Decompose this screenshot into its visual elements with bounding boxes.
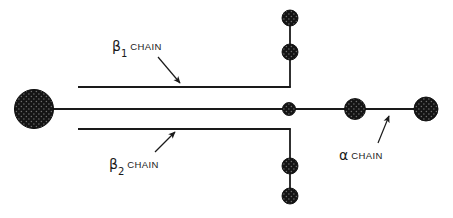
beta1-subscript: 1 (121, 48, 127, 59)
alpha-pointer-arrow (378, 116, 389, 143)
beta1-inner-node (282, 44, 298, 60)
beta2-subscript: 2 (118, 166, 124, 177)
beta2-pointer-arrow (155, 132, 175, 152)
alpha-greek-symbol: α (339, 147, 348, 163)
center-junction-node (283, 103, 296, 116)
beta2-inner-node (282, 158, 298, 174)
beta1-outer-node (282, 10, 298, 26)
left-terminal-node (15, 90, 54, 129)
edge-group (34, 11, 426, 203)
beta2-outer-node (282, 188, 298, 204)
figure-canvas: β1CHAIN β2CHAIN αCHAIN (0, 0, 453, 218)
alpha-chain-word: CHAIN (351, 150, 383, 161)
alpha-terminal-node (414, 97, 438, 121)
beta1-greek-symbol: β (112, 38, 121, 54)
beta1-pointer-arrow (158, 57, 180, 83)
chain-diagram-svg (0, 0, 453, 218)
node-group (15, 10, 439, 204)
alpha-chain-label: αCHAIN (339, 147, 383, 163)
beta2-chain-label: β2CHAIN (109, 156, 159, 175)
beta2-greek-symbol: β (109, 156, 118, 172)
beta2-chain-word: CHAIN (127, 159, 159, 170)
beta1-chain-word: CHAIN (130, 41, 162, 52)
beta1-chain-label: β1CHAIN (112, 38, 162, 57)
alpha-mid-node (345, 99, 366, 120)
